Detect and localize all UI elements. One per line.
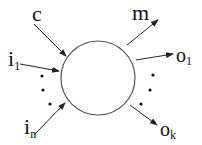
- label-ok: ok: [160, 118, 176, 142]
- label-i1: i1: [8, 46, 20, 73]
- output-ellipsis: [139, 73, 154, 105]
- label-o1: o1: [176, 44, 192, 68]
- label-m: m: [132, 0, 149, 25]
- arrow-in: [34, 103, 65, 135]
- arrow-ok: [130, 105, 157, 125]
- label-in: in: [24, 114, 36, 141]
- process-node-diagram: c i1 in m o1 ok: [0, 0, 202, 145]
- arrow-o1: [136, 54, 173, 60]
- input-ellipsis: [40, 74, 51, 105]
- arrow-i1: [20, 64, 59, 71]
- arrow-c: [34, 24, 66, 56]
- label-c: c: [32, 1, 42, 26]
- process-circle: [61, 41, 135, 115]
